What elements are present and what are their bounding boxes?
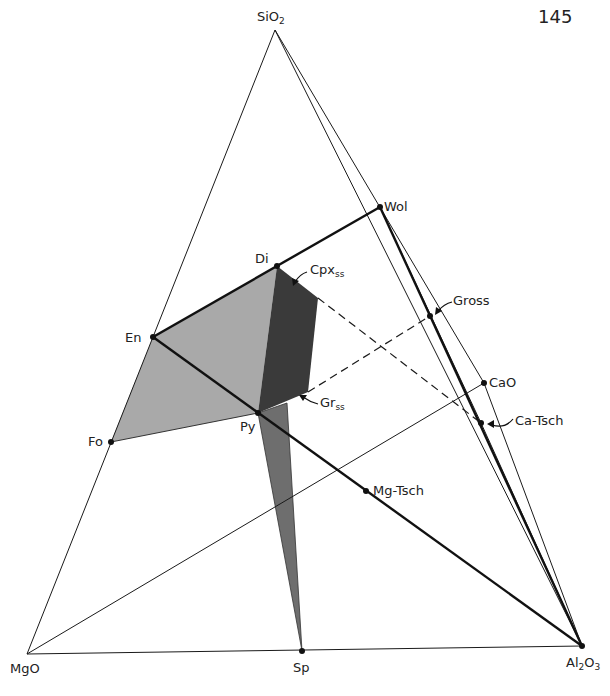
gross-point (427, 313, 433, 319)
di-point (274, 263, 280, 269)
wol-label: Wol (384, 200, 408, 213)
di-label: Di (255, 252, 269, 265)
gr-ss-label: Grss (320, 396, 345, 412)
fo-en-di-py-region (111, 266, 277, 442)
cao-point (481, 380, 487, 386)
gr-arrowhead (299, 395, 307, 401)
py-label: Py (240, 420, 256, 433)
gr-leader (303, 397, 318, 404)
ca-tsch-leader (492, 419, 513, 426)
ternary-diagram (0, 0, 610, 696)
sp-point (299, 648, 305, 654)
al2o3-label: Al2O3 (566, 656, 600, 672)
al2o3-point (579, 643, 585, 649)
mgo-label: MgO (10, 662, 40, 675)
wol-point (377, 204, 383, 210)
en-label: En (125, 331, 141, 344)
en-point (150, 334, 156, 340)
ca-tsch-arrowhead (487, 420, 494, 428)
fo-point (108, 439, 114, 445)
sio2-label: SiO2 (257, 10, 285, 26)
gr-gross-dashed (308, 316, 430, 392)
mg-tsch-point (363, 488, 369, 494)
ca-tsch-point (478, 420, 484, 426)
ca-tsch-label: Ca-Tsch (515, 414, 564, 427)
fo-label: Fo (88, 435, 103, 448)
py-point (255, 410, 261, 416)
mg-tsch-label: Mg-Tsch (373, 484, 424, 497)
cpx-ss-label: Cpxss (310, 263, 344, 279)
sp-label: Sp (293, 661, 310, 674)
cao-label: CaO (489, 376, 516, 389)
gross-label: Gross (453, 294, 490, 307)
